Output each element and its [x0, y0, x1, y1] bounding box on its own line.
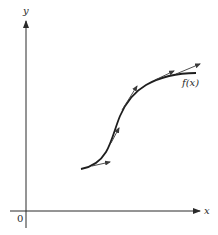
origin-label: 0 — [17, 213, 23, 224]
function-curve — [81, 73, 196, 169]
tangent-vector-diagram: y x 0 f(x) — [0, 0, 218, 235]
x-axis-label: x — [204, 205, 210, 216]
curve-label: f(x) — [181, 77, 199, 88]
tangent-vector-3 — [122, 86, 137, 110]
y-axis-label: y — [22, 5, 29, 16]
